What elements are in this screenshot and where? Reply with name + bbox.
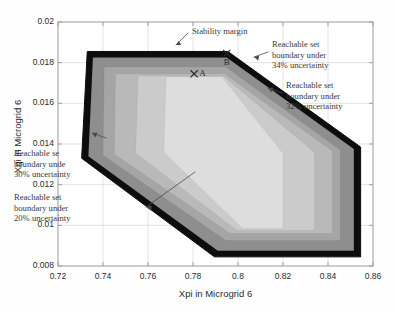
annotation-band-34-line3: 34% uncertainty: [272, 60, 329, 71]
point-label-b: B: [224, 57, 230, 67]
y-tick-0.014: 0.014: [33, 138, 54, 148]
x-tick-0.82: 0.82: [269, 271, 297, 281]
y-tick-0.012: 0.012: [33, 179, 54, 189]
annotation-band-20: Reachable set boundary under 20% uncerta…: [14, 192, 71, 224]
annotation-band-20-line2: boundary under: [14, 203, 71, 214]
x-axis-title: Xpi in Microgrid 6: [58, 288, 373, 299]
annotation-band-20-line3: 20% uncertainty: [14, 213, 71, 224]
x-tick-0.72: 0.72: [44, 271, 72, 281]
y-tick-0.016: 0.016: [33, 97, 54, 107]
annotation-band-32: Reachable set boundary under 32% uncerta…: [286, 80, 343, 112]
y-tick-0.018: 0.018: [33, 57, 54, 67]
x-tick-0.74: 0.74: [89, 271, 117, 281]
x-tick-0.76: 0.76: [134, 271, 162, 281]
y-tick-0.02: 0.02: [37, 16, 54, 26]
annotation-band-34: Reachable set boundary under 34% uncerta…: [272, 39, 329, 71]
point-label-a: A: [199, 68, 206, 78]
annotation-band-30-line1: Reachable se: [14, 148, 71, 159]
annotation-band-32-line2: boundary under: [286, 91, 343, 102]
annotation-stability-margin: Stability margin: [192, 26, 247, 37]
x-tick-0.86: 0.86: [359, 271, 387, 281]
annotation-band-32-line3: 32% uncertainty: [286, 101, 343, 112]
x-tick-0.8: 0.8: [224, 271, 252, 281]
annotation-band-20-line1: Reachable set: [14, 192, 71, 203]
annotation-band-30-line2: boundary unde: [14, 159, 71, 170]
annotation-band-34-line1: Reachable set: [272, 39, 329, 50]
x-tick-0.84: 0.84: [314, 271, 342, 281]
x-tick-0.78: 0.78: [179, 271, 207, 281]
annotation-band-30-line3: 30% uncertainty: [14, 169, 71, 180]
figure-canvas: 0.0080.010.0120.0140.0160.0180.02 0.720.…: [0, 0, 396, 313]
y-tick-0.008: 0.008: [33, 260, 54, 270]
annotation-band-34-line2: boundary under: [272, 50, 329, 61]
annotation-band-32-line1: Reachable set: [286, 80, 343, 91]
annotation-band-30: Reachable se boundary unde 30% uncertain…: [14, 148, 71, 180]
